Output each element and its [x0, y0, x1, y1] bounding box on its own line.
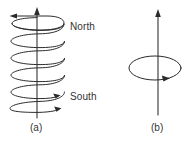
- panel-a-coil-turn-4: [11, 58, 65, 81]
- caption-panel-b: (b): [151, 122, 163, 133]
- panel-b-axis-arrow-up-icon: [155, 9, 161, 17]
- label-south: South: [70, 91, 97, 102]
- caption-panel-a: (a): [30, 122, 42, 133]
- panel-b-flow-arrow-right-icon: [162, 76, 170, 82]
- diagram-canvas: [0, 0, 196, 142]
- panel-a-coil-turn-1b: [12, 24, 64, 31]
- panel-a-flow-arrow-left-icon: [10, 13, 18, 18]
- panel-a-axis-arrow-up-icon: [34, 7, 40, 15]
- figure-container: North South (a) (b): [0, 0, 196, 142]
- panel-b-group: [129, 9, 181, 115]
- label-north: North: [70, 21, 95, 32]
- panel-a-group: [10, 7, 65, 118]
- panel-a-coil-turn-3: [11, 41, 65, 64]
- panel-b-loop-ellipse-icon: [129, 56, 181, 80]
